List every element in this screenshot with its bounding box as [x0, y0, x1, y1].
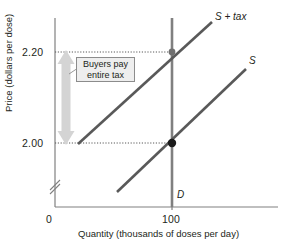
buyers-pay-entire-tax-callout: Buyers pay entire tax [76, 57, 135, 82]
y-tick-label-220: 2.20 [22, 47, 43, 58]
callout-line-1: Buyers pay [83, 59, 128, 70]
tax-incidence-chart: Price (dollars per dose) Quantity (thous… [0, 0, 283, 240]
after-tax-equilibrium-dot [169, 49, 176, 56]
supply-plus-tax-label: S + tax [215, 12, 246, 22]
y-axis-title: Price (dollars per dose) [4, 14, 14, 112]
supply-curve [117, 69, 246, 192]
x-tick-label-100: 100 [162, 214, 180, 225]
pre-tax-equilibrium-dot [168, 139, 176, 147]
chart-canvas [0, 0, 283, 240]
x-axis-title: Quantity (thousands of doses per day) [78, 229, 239, 239]
supply-label: S [249, 56, 256, 66]
origin-label: 0 [46, 214, 52, 225]
tax-span-double-arrow-icon [58, 50, 75, 145]
callout-line-2: entire tax [87, 70, 124, 81]
y-tick-label-200: 2.00 [22, 138, 43, 149]
supply-plus-tax-curve [78, 22, 212, 144]
demand-label: D [177, 190, 184, 200]
